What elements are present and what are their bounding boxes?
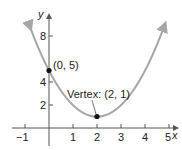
x-axis-label: x [172,130,178,141]
x-ticks [25,124,169,128]
point-label-vertex: Vertex: (2, 1) [67,89,130,100]
x-tick-5: 5 [165,132,171,143]
x-tick-3: 3 [118,132,124,143]
x-tick-4: 4 [142,132,148,143]
y-tick-8: 8 [40,31,46,42]
y-tick-4: 4 [40,77,46,88]
vertex-leader [92,100,96,114]
chart-canvas [0,0,182,150]
point-vertex [94,114,99,119]
x-tick-1: 1 [70,132,76,143]
parabola-chart: y x 8 4 2 −1 1 2 3 4 5 (0, 5) Vertex: (2… [0,0,182,150]
y-axis-label: y [38,9,44,20]
point-label-y-intercept: (0, 5) [53,60,79,71]
x-tick-2: 2 [94,132,100,143]
y-tick-2: 2 [40,100,46,111]
point-y-intercept [46,68,51,73]
x-tick-neg1: −1 [16,132,29,143]
